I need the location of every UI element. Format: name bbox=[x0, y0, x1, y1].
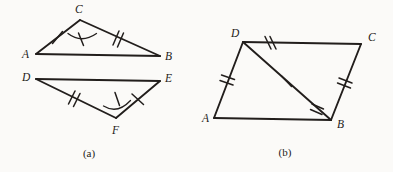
angle-arc-C bbox=[68, 34, 97, 39]
tick-single-angle-F bbox=[115, 93, 120, 106]
vertex-label-A-b: A bbox=[201, 112, 210, 124]
vertex-label-E: E bbox=[164, 72, 172, 84]
side-AD bbox=[214, 42, 243, 118]
vertex-label-C-b: C bbox=[368, 31, 376, 43]
triangle-abc: A B C bbox=[21, 3, 172, 62]
tick-single-side-AC bbox=[53, 32, 63, 44]
vertex-label-B: B bbox=[165, 50, 172, 62]
geometry-figure-panel: A B C D E F (a) bbox=[0, 0, 393, 172]
geometry-svg-canvas: A B C D E F (a) bbox=[0, 0, 393, 172]
parallelogram-abcd: A B C D bbox=[201, 27, 376, 130]
side-CB bbox=[331, 44, 361, 120]
vertex-label-A: A bbox=[21, 48, 30, 60]
vertex-label-F: F bbox=[111, 124, 120, 136]
side-AB bbox=[36, 54, 160, 56]
figure-a-caption: (a) bbox=[83, 147, 96, 160]
triangle-def: D E F bbox=[21, 71, 172, 136]
side-DE bbox=[36, 79, 160, 81]
tick-single-diagonal-DB bbox=[282, 76, 292, 87]
vertex-label-D: D bbox=[21, 71, 31, 83]
angle-arc-F bbox=[104, 101, 131, 110]
figure-b-caption: (b) bbox=[279, 146, 292, 159]
vertex-label-B-b: B bbox=[337, 118, 344, 130]
side-DF bbox=[36, 79, 116, 118]
side-CB bbox=[80, 20, 160, 56]
vertex-label-C: C bbox=[75, 3, 83, 15]
side-AB bbox=[214, 118, 331, 120]
side-DC bbox=[243, 42, 361, 44]
vertex-label-D-b: D bbox=[230, 27, 240, 39]
